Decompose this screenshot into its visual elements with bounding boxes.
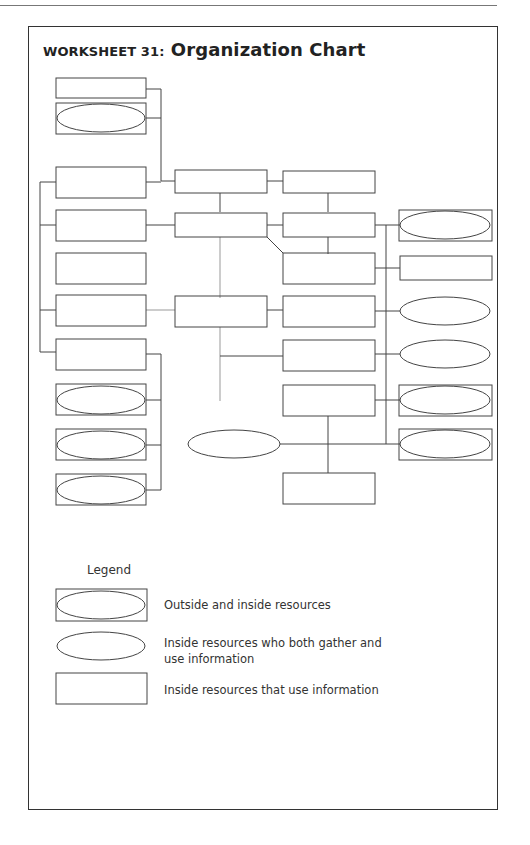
- legend-label-outside-inside: Outside and inside resources: [164, 597, 384, 613]
- center-column: [175, 170, 280, 458]
- left-column: [56, 78, 146, 505]
- legend-shapes: [56, 589, 147, 704]
- node-rect: [283, 253, 375, 284]
- node-rect: [56, 78, 146, 98]
- legend-title: Legend: [87, 563, 131, 577]
- legend-shape-ellipse: [57, 632, 145, 660]
- node-rect: [283, 473, 375, 504]
- node-rect: [283, 385, 375, 416]
- node-ellipse-in-rect: [56, 384, 146, 415]
- legend-shape-rect: [56, 673, 147, 704]
- right-column: [283, 171, 375, 504]
- node-rect: [175, 170, 267, 193]
- node-rect: [400, 256, 492, 280]
- legend-label-use: Inside resources that use information: [164, 682, 384, 698]
- legend-label-gather-use: Inside resources who both gather and use…: [164, 635, 384, 667]
- node-ellipse-in-rect: [56, 474, 146, 505]
- node-ellipse: [188, 430, 280, 458]
- node-rect: [56, 339, 146, 370]
- node-rect: [283, 296, 375, 327]
- node-rect: [283, 171, 375, 193]
- far-right-column: [399, 210, 492, 460]
- org-chart: [0, 0, 530, 845]
- node-ellipse: [400, 297, 490, 325]
- node-rect: [56, 253, 146, 284]
- node-ellipse: [400, 340, 490, 368]
- connectors: [40, 89, 400, 490]
- node-rect: [175, 296, 267, 327]
- node-rect: [283, 213, 375, 237]
- node-rect: [283, 340, 375, 371]
- legend-shape-ellipse-in-rect: [56, 589, 147, 621]
- node-rect: [56, 295, 146, 326]
- node-rect: [175, 213, 267, 237]
- node-rect: [56, 210, 146, 241]
- node-ellipse-in-rect: [56, 429, 146, 460]
- node-ellipse-in-rect: [56, 103, 146, 134]
- node-rect: [56, 167, 146, 198]
